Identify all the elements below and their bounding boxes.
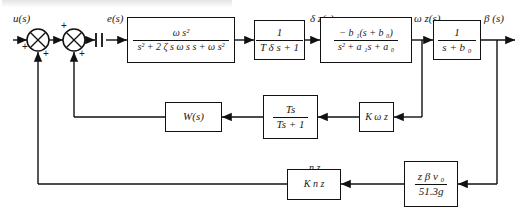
limiter-symbol bbox=[96, 33, 102, 47]
block-washout-filter: Ts Ts + 1 bbox=[263, 95, 318, 139]
sign-j2-input: + bbox=[61, 20, 67, 31]
block-integrator-denominator: s + b ₀ bbox=[438, 40, 475, 54]
block-washout-denominator: Ts + 1 bbox=[273, 117, 309, 131]
block-servo-denominator: T δ s + 1 bbox=[256, 40, 303, 54]
block-accel-sensor-denominator: 51.3g bbox=[415, 184, 448, 198]
block-accel-sensor-numerator: z β v ₀ bbox=[414, 171, 449, 184]
block-actuator-numerator: ω s² bbox=[169, 28, 193, 40]
block-washout-numerator: Ts bbox=[282, 104, 299, 117]
sign-j1-feedback: + bbox=[43, 48, 49, 59]
block-accel-gain: K n z bbox=[287, 169, 341, 200]
block-accel-sensor: z β v ₀ 51.3g bbox=[404, 161, 458, 207]
block-servo-numerator: 1 bbox=[273, 27, 287, 40]
block-beta-integrator: 1 s + b ₀ bbox=[433, 20, 481, 60]
label-error-signal: e(s) bbox=[107, 12, 124, 24]
block-accel-gain-label: K n z bbox=[304, 179, 325, 190]
sign-j1-input: + bbox=[22, 41, 28, 52]
block-airframe-numerator: − b ₁(s + b ₀) bbox=[335, 28, 397, 40]
block-airframe-denominator: s² + a ₁s + a ₀ bbox=[334, 40, 398, 53]
block-actuator-second-order: ω s² s² + 2 ζ s ω s s + ω s² bbox=[127, 17, 235, 63]
block-rate-gain-label: K ω z bbox=[365, 112, 388, 123]
block-integrator-numerator: 1 bbox=[450, 27, 464, 40]
label-input-signal: u(s) bbox=[13, 12, 30, 24]
block-airframe-rate: − b ₁(s + b ₀) s² + a ₁s + a ₀ bbox=[320, 17, 412, 63]
block-shaping-label: W(s) bbox=[183, 111, 204, 123]
block-servo-lag: 1 T δ s + 1 bbox=[254, 20, 305, 60]
block-diagram: + + + + u(s) e(s) δ z(s) ω z(s) β (s) n … bbox=[0, 0, 519, 216]
label-beta-signal: β (s) bbox=[484, 12, 504, 24]
block-actuator-denominator: s² + 2 ζ s ω s s + ω s² bbox=[133, 40, 228, 53]
block-rate-gain: K ω z bbox=[359, 102, 394, 132]
sign-j2-feedback: + bbox=[79, 48, 85, 59]
block-shaping-filter: W(s) bbox=[165, 102, 222, 132]
